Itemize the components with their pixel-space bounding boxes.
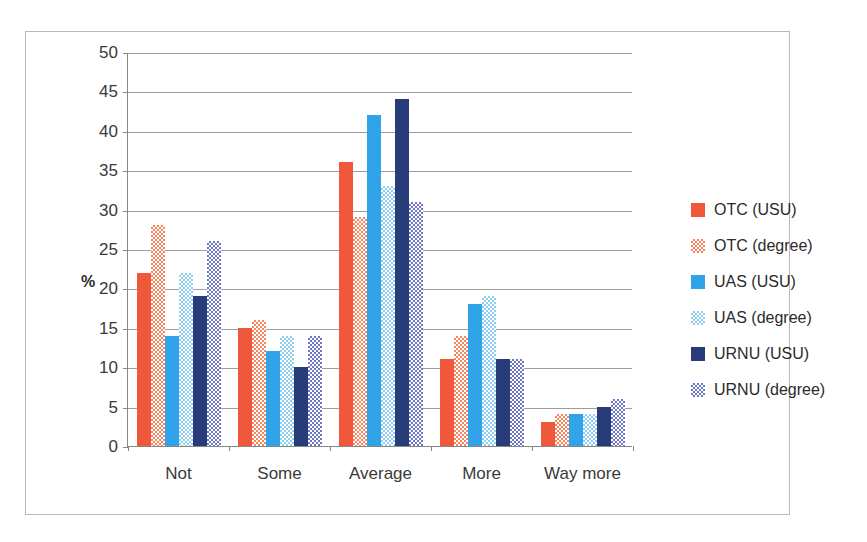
- legend-label: OTC (USU): [714, 201, 797, 219]
- legend-label: URNU (degree): [714, 381, 825, 399]
- bar[interactable]: [440, 359, 454, 446]
- legend-swatch-icon: [691, 347, 705, 361]
- y-axis-tick-label: 30: [78, 201, 118, 221]
- bar-group: [431, 53, 532, 446]
- bar[interactable]: [597, 407, 611, 446]
- y-axis-tick-label: 35: [78, 161, 118, 181]
- bar[interactable]: [280, 336, 294, 446]
- bar[interactable]: [496, 359, 510, 446]
- bar[interactable]: [395, 99, 409, 446]
- bar[interactable]: [381, 186, 395, 446]
- bar[interactable]: [308, 336, 322, 446]
- legend-item[interactable]: UAS (USU): [691, 264, 825, 300]
- legend-label: UAS (USU): [714, 273, 796, 291]
- bar[interactable]: [611, 399, 625, 446]
- y-axis-tick-label: 20: [78, 279, 118, 299]
- plot-area: 50454035302520151050 NotSomeAverageMoreW…: [127, 53, 632, 447]
- bar[interactable]: [454, 336, 468, 446]
- bar[interactable]: [266, 351, 280, 446]
- bar[interactable]: [468, 304, 482, 446]
- x-axis-tick-label: Way more: [544, 464, 621, 484]
- legend-label: UAS (degree): [714, 309, 812, 327]
- bar[interactable]: [193, 296, 207, 446]
- legend-swatch-icon: [691, 239, 705, 253]
- bar[interactable]: [165, 336, 179, 446]
- legend: OTC (USU)OTC (degree)UAS (USU)UAS (degre…: [691, 192, 825, 408]
- legend-swatch-icon: [691, 275, 705, 289]
- bar[interactable]: [555, 414, 569, 446]
- bar[interactable]: [179, 273, 193, 446]
- bar[interactable]: [252, 320, 266, 446]
- legend-label: URNU (USU): [714, 345, 809, 363]
- bar[interactable]: [583, 414, 597, 446]
- bar-group: [532, 53, 633, 446]
- bar[interactable]: [294, 367, 308, 446]
- bar[interactable]: [353, 217, 367, 446]
- x-axis-tick-label: Average: [349, 464, 412, 484]
- y-axis-tick-label: 0: [78, 437, 118, 457]
- y-axis-tick-label: 40: [78, 122, 118, 142]
- y-axis-tick-label: 15: [78, 319, 118, 339]
- legend-label: OTC (degree): [714, 237, 813, 255]
- legend-item[interactable]: URNU (degree): [691, 372, 825, 408]
- bar-group: [330, 53, 431, 446]
- bar[interactable]: [238, 328, 252, 446]
- legend-swatch-icon: [691, 203, 705, 217]
- bar[interactable]: [541, 422, 555, 446]
- bar[interactable]: [409, 202, 423, 446]
- x-axis-tick: [229, 446, 230, 451]
- x-axis-tick: [532, 446, 533, 451]
- y-axis-tick-label: 10: [78, 358, 118, 378]
- bar[interactable]: [510, 359, 524, 446]
- bar-group: [128, 53, 229, 446]
- legend-item[interactable]: OTC (USU): [691, 192, 825, 228]
- legend-item[interactable]: UAS (degree): [691, 300, 825, 336]
- x-axis-tick-label: Not: [165, 464, 191, 484]
- x-axis-tick: [431, 446, 432, 451]
- legend-swatch-icon: [691, 311, 705, 325]
- y-axis-tick-label: 45: [78, 82, 118, 102]
- bar[interactable]: [137, 273, 151, 446]
- y-axis-tick-label: 25: [78, 240, 118, 260]
- x-axis-tick-label: Some: [257, 464, 301, 484]
- bar[interactable]: [339, 162, 353, 446]
- legend-swatch-icon: [691, 383, 705, 397]
- chart-frame: % 50454035302520151050 NotSomeAverageMor…: [25, 31, 790, 515]
- x-axis-tick: [330, 446, 331, 451]
- x-axis-tick-label: More: [462, 464, 501, 484]
- x-axis-tick: [633, 446, 634, 451]
- legend-item[interactable]: OTC (degree): [691, 228, 825, 264]
- bar[interactable]: [207, 241, 221, 446]
- bar[interactable]: [367, 115, 381, 446]
- bar[interactable]: [482, 296, 496, 446]
- x-axis-tick: [128, 446, 129, 451]
- legend-item[interactable]: URNU (USU): [691, 336, 825, 372]
- bar[interactable]: [569, 414, 583, 446]
- y-axis-tick-label: 5: [78, 398, 118, 418]
- bar-group: [229, 53, 330, 446]
- y-axis-tick-label: 50: [78, 43, 118, 63]
- bar[interactable]: [151, 225, 165, 446]
